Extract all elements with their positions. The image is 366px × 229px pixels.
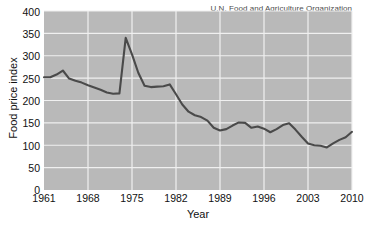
plot-area <box>0 0 366 229</box>
food-price-index-chart: U.N. Food and Agriculture Organization F… <box>0 0 366 229</box>
